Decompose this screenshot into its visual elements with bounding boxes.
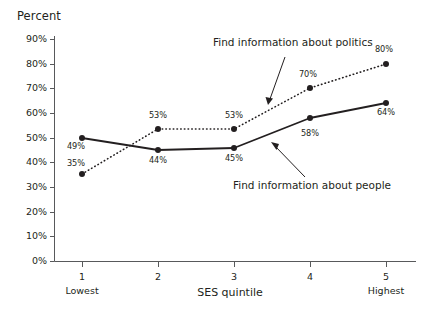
chart-figure: Percent (0, 0, 429, 313)
data-label-people-1: 49% (59, 141, 93, 151)
y-tick-label-0: 0% (17, 255, 47, 266)
data-label-people-3: 45% (217, 153, 251, 163)
data-label-people-5: 64% (369, 107, 403, 117)
data-label-politics-2: 53% (141, 110, 175, 120)
x-tick-label-3: 3 (219, 271, 249, 282)
data-label-politics-4: 70% (291, 69, 325, 79)
y-tick-marks (50, 40, 55, 262)
data-label-politics-3: 53% (217, 110, 251, 120)
y-tick-label-40: 40% (17, 156, 47, 167)
annotation-label-politics: Find information about politics (213, 36, 373, 48)
x-tick-label-5: 5 (371, 271, 401, 282)
x-tick-label-4: 4 (295, 271, 325, 282)
x-tick-marks (83, 262, 387, 268)
data-label-people-4: 58% (293, 128, 327, 138)
data-label-people-2: 44% (141, 155, 175, 165)
x-tick-label-1: 1 (67, 271, 97, 282)
y-tick-label-50: 50% (17, 132, 47, 143)
annotation-arrow-politics (266, 57, 286, 105)
data-label-politics-1: 35% (59, 158, 93, 168)
y-tick-label-30: 30% (17, 181, 47, 192)
annotation-label-people: Find information about people (233, 179, 391, 191)
annotation-arrow-people (271, 142, 305, 177)
y-tick-label-80: 80% (17, 58, 47, 69)
x-tick-label-2: 2 (143, 271, 173, 282)
x-tick-sublabel-highest: Highest (356, 285, 416, 296)
y-tick-label-70: 70% (17, 82, 47, 93)
y-tick-label-20: 20% (17, 206, 47, 217)
x-axis-title: SES quintile (160, 286, 300, 299)
x-tick-sublabel-lowest: Lowest (52, 285, 112, 296)
y-tick-label-10: 10% (17, 230, 47, 241)
y-tick-label-90: 90% (17, 33, 47, 44)
y-tick-label-60: 60% (17, 107, 47, 118)
